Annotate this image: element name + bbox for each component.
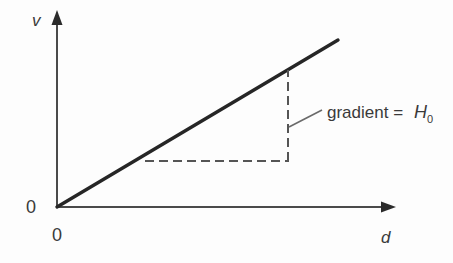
y-origin-label: 0 — [26, 197, 36, 217]
gradient-annotation-text: gradient = — [327, 103, 403, 122]
x-origin-label: 0 — [52, 225, 62, 245]
gradient-annotation-symbol: H — [414, 102, 428, 122]
x-axis-arrowhead-icon — [381, 202, 396, 213]
annotation-leader-line — [289, 110, 322, 127]
hubble-diagram-figure: v d 0 0 gradient = H 0 — [0, 0, 453, 263]
y-axis-arrowhead-icon — [52, 10, 63, 25]
x-axis-label: d — [381, 228, 391, 247]
figure-canvas: v d 0 0 gradient = H 0 — [0, 0, 453, 263]
gradient-annotation-subscript: 0 — [427, 113, 433, 125]
y-axis-label: v — [32, 11, 42, 30]
